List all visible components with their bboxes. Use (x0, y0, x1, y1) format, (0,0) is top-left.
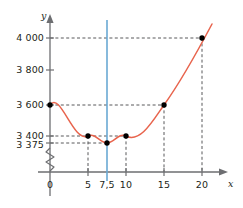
y-tick-label-3800: 3 800 (0, 65, 44, 75)
data-point-5-3400 (85, 133, 90, 138)
chart-figure: 4 000 3 800 3 600 3 400 3 375 0 5 7,5 10… (0, 0, 243, 208)
data-point-20-4000 (199, 35, 204, 40)
data-point-0-3600 (47, 102, 52, 107)
x-tick-label-15: 15 (149, 180, 179, 190)
y-axis-label: y (41, 10, 46, 21)
x-axis-label: x (228, 178, 233, 189)
data-point-7.5-3375 (104, 140, 109, 145)
parabola-curve (50, 24, 212, 143)
y-tick-label-3600: 3 600 (0, 100, 44, 110)
x-tick-label-0: 0 (35, 180, 65, 190)
data-points (47, 35, 204, 145)
x-tick-label-10: 10 (111, 180, 141, 190)
y-axis-arrow-icon (46, 14, 53, 23)
x-axis (38, 168, 228, 176)
y-tick-label-4000: 4 000 (0, 33, 44, 43)
data-point-10-3400 (123, 133, 128, 138)
x-tick-label-20: 20 (187, 180, 217, 190)
y-tick-label-3375: 3 375 (0, 140, 44, 150)
data-point-15-3600 (161, 102, 166, 107)
x-axis-arrow-icon (219, 168, 228, 175)
